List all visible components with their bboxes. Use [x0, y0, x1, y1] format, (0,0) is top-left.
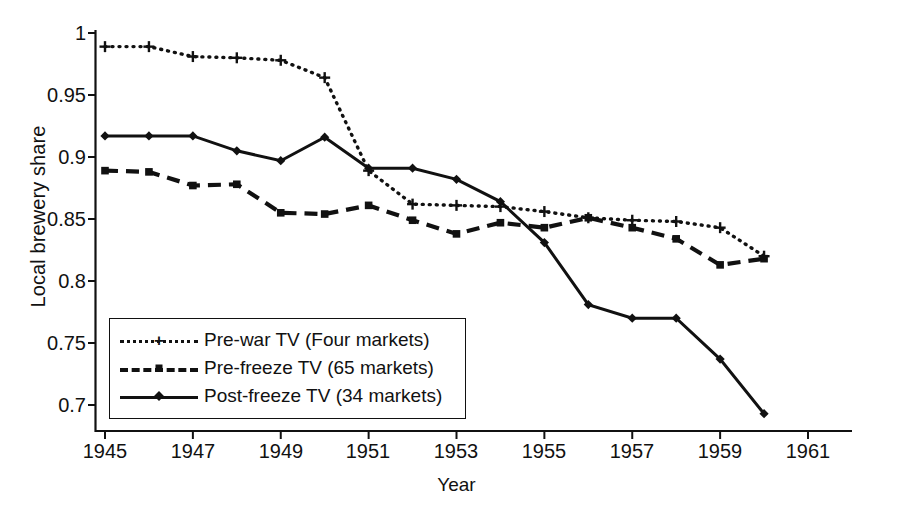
legend-key-solid-diamond [120, 387, 198, 405]
diamond-marker-icon [154, 391, 164, 401]
x-tick-marks [105, 431, 808, 439]
square-marker-icon [156, 365, 163, 372]
plus-marker-icon: + [154, 332, 164, 349]
legend-key-dotted-plus: + [120, 331, 198, 349]
legend-label: Pre-war TV (Four markets) [204, 329, 430, 351]
series-2 [101, 167, 768, 269]
legend-key-dashed-square [120, 359, 198, 377]
chart-figure: Local brewery share 1 0.95 0.9 0.85 0.8 … [0, 0, 913, 514]
legend-item-pre-freeze: Pre-freeze TV (65 markets) [120, 354, 455, 382]
legend-label: Post-freeze TV (34 markets) [204, 385, 442, 407]
chart-legend: + Pre-war TV (Four markets) Pre-freeze T… [109, 318, 466, 419]
legend-item-post-freeze: Post-freeze TV (34 markets) [120, 382, 455, 410]
legend-item-pre-war: + Pre-war TV (Four markets) [120, 326, 455, 354]
legend-label: Pre-freeze TV (65 markets) [204, 357, 434, 379]
plot-area [0, 0, 913, 514]
